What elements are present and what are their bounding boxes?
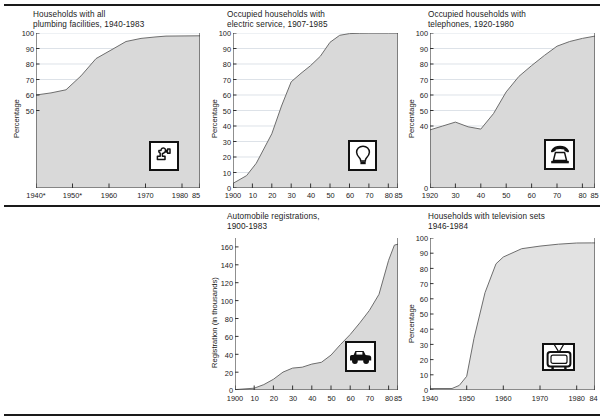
xtick-television-1970: 1970 bbox=[527, 394, 553, 403]
ytick-plumbing-80: 80 bbox=[14, 60, 34, 69]
ytick-plumbing-50: 50 bbox=[14, 107, 34, 116]
xtick-electric-1900: 1900 bbox=[220, 191, 246, 200]
ytick-automobiles-80: 80 bbox=[213, 315, 233, 324]
xtick-electric-50: 50 bbox=[321, 191, 340, 200]
plot-area-electric bbox=[233, 33, 398, 188]
panel-electric: Occupied households with electric servic… bbox=[205, 8, 400, 203]
ytick-automobiles-160: 160 bbox=[213, 243, 233, 252]
ytick-electric-10: 10 bbox=[211, 169, 231, 178]
xtick-telephones-60: 60 bbox=[522, 191, 541, 200]
telephone-icon-box bbox=[544, 139, 575, 170]
chart-sheet: Households with all plumbing facilities,… bbox=[0, 0, 604, 420]
ytick-automobiles-120: 120 bbox=[213, 279, 233, 288]
ytick-automobiles-20: 20 bbox=[213, 369, 233, 378]
ytick-television-70: 70 bbox=[408, 280, 428, 289]
ytick-automobiles-40: 40 bbox=[213, 351, 233, 360]
ytick-automobiles-140: 140 bbox=[213, 261, 233, 270]
xtick-automobiles-10: 10 bbox=[245, 394, 264, 403]
xtick-plumbing-1950: 1950* bbox=[57, 191, 89, 200]
ytick-television-80: 80 bbox=[408, 265, 428, 274]
ytick-electric-20: 20 bbox=[211, 153, 231, 162]
faucet-icon bbox=[154, 147, 175, 165]
panel-title-television: Households with television sets 1946-198… bbox=[428, 212, 604, 232]
ytick-telephones-90: 90 bbox=[408, 45, 428, 54]
ytick-television-10: 10 bbox=[408, 371, 428, 380]
ytick-telephones-80: 80 bbox=[408, 60, 428, 69]
panel-automobiles: Automobile registrations, 1900-1983 Regi… bbox=[205, 210, 400, 415]
xtick-plumbing-1970: 1970 bbox=[130, 191, 162, 200]
ytick-plumbing-70: 70 bbox=[14, 76, 34, 85]
xtick-automobiles-20: 20 bbox=[264, 394, 283, 403]
xtick-television-84: 84 bbox=[585, 394, 602, 403]
xtick-electric-70: 70 bbox=[360, 191, 379, 200]
panel-plumbing: Households with all plumbing facilities,… bbox=[0, 8, 205, 203]
y-axis-label-plumbing: Percentage bbox=[12, 99, 21, 138]
top-rule bbox=[4, 4, 600, 6]
panel-title-electric: Occupied households with electric servic… bbox=[227, 10, 402, 30]
xtick-electric-60: 60 bbox=[341, 191, 360, 200]
xtick-telephones-30: 30 bbox=[446, 191, 465, 200]
ytick-telephones-50: 50 bbox=[408, 107, 428, 116]
plot-area-automobiles bbox=[235, 238, 398, 390]
ytick-automobiles-100: 100 bbox=[213, 297, 233, 306]
automobile-icon bbox=[349, 349, 372, 365]
middle-rule bbox=[4, 205, 600, 207]
plot-area-telephones bbox=[430, 33, 595, 188]
ytick-plumbing-100: 100 bbox=[14, 29, 34, 38]
ytick-television-50: 50 bbox=[408, 310, 428, 319]
plot-area-plumbing bbox=[36, 33, 200, 188]
panel-television: Households with television sets 1946-198… bbox=[400, 210, 604, 415]
xtick-electric-10: 10 bbox=[243, 191, 262, 200]
ytick-plumbing-60: 60 bbox=[14, 91, 34, 100]
xtick-plumbing-1940: 1940* bbox=[20, 191, 52, 200]
ytick-television-60: 60 bbox=[408, 295, 428, 304]
ytick-telephones-100: 100 bbox=[408, 29, 428, 38]
ytick-television-30: 30 bbox=[408, 341, 428, 350]
xtick-telephones-50: 50 bbox=[497, 191, 516, 200]
television-icon bbox=[546, 344, 572, 370]
ytick-electric-80: 80 bbox=[211, 60, 231, 69]
ytick-electric-70: 70 bbox=[211, 76, 231, 85]
ytick-electric-40: 40 bbox=[211, 122, 231, 131]
ytick-electric-30: 30 bbox=[211, 138, 231, 147]
ytick-television-100: 100 bbox=[408, 234, 428, 243]
telephone-icon bbox=[549, 145, 571, 164]
xtick-electric-30: 30 bbox=[282, 191, 301, 200]
ytick-telephones-40: 40 bbox=[408, 122, 428, 131]
ytick-television-40: 40 bbox=[408, 326, 428, 335]
ytick-telephones-70: 70 bbox=[408, 76, 428, 85]
ytick-electric-90: 90 bbox=[211, 45, 231, 54]
panel-telephones: Occupied households with telephones, 192… bbox=[400, 8, 604, 203]
xtick-automobiles-50: 50 bbox=[322, 394, 341, 403]
xtick-television-1950: 1950 bbox=[454, 394, 480, 403]
xtick-electric-20: 20 bbox=[263, 191, 282, 200]
xtick-telephones-40: 40 bbox=[471, 191, 490, 200]
ytick-automobiles-60: 60 bbox=[213, 333, 233, 342]
y-axis-label-electric: Percentage bbox=[210, 99, 219, 138]
ytick-plumbing-90: 90 bbox=[14, 45, 34, 54]
television-icon-box bbox=[542, 343, 575, 371]
ytick-television-90: 90 bbox=[408, 249, 428, 258]
automobile-icon-box bbox=[345, 341, 376, 372]
ytick-electric-50: 50 bbox=[211, 107, 231, 116]
lightbulb-icon bbox=[355, 145, 371, 167]
lightbulb-icon-box bbox=[348, 140, 377, 171]
xtick-automobiles-40: 40 bbox=[303, 394, 322, 403]
ytick-electric-100: 100 bbox=[211, 29, 231, 38]
y-axis-label-telephones: Percentage bbox=[407, 99, 416, 138]
panel-title-automobiles: Automobile registrations, 1900-1983 bbox=[227, 212, 402, 232]
panel-title-plumbing: Households with all plumbing facilities,… bbox=[33, 10, 203, 30]
xtick-telephones-85: 85 bbox=[586, 191, 603, 200]
xtick-plumbing-1960: 1960 bbox=[93, 191, 125, 200]
xtick-television-1940: 1940 bbox=[417, 394, 443, 403]
xtick-telephones-70: 70 bbox=[548, 191, 567, 200]
xtick-television-1960: 1960 bbox=[490, 394, 516, 403]
faucet-icon-box bbox=[149, 141, 179, 171]
ytick-telephones-60: 60 bbox=[408, 91, 428, 100]
panel-title-telephones: Occupied households with telephones, 192… bbox=[428, 10, 603, 30]
xtick-automobiles-60: 60 bbox=[341, 394, 360, 403]
xtick-automobiles-30: 30 bbox=[284, 394, 303, 403]
ytick-television-20: 20 bbox=[408, 356, 428, 365]
xtick-automobiles-1900: 1900 bbox=[222, 394, 248, 403]
xtick-electric-40: 40 bbox=[302, 191, 321, 200]
